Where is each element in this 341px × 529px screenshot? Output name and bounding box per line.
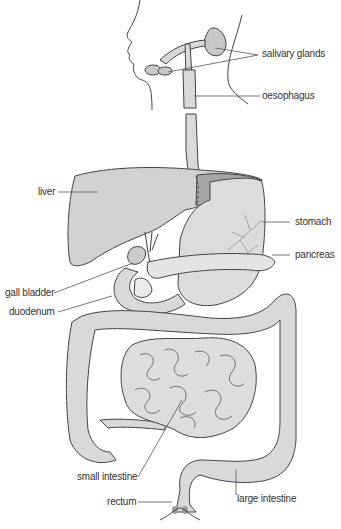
label-large-intestine: large intestine: [237, 493, 296, 504]
label-pancreas: pancreas: [295, 249, 335, 260]
oesophagus-upper: [183, 70, 196, 108]
face-outline: [127, 0, 152, 110]
label-stomach: stomach: [295, 216, 331, 227]
label-small-intestine: small intestine: [77, 471, 137, 482]
label-rectum: rectum: [107, 496, 136, 507]
digestive-system-diagram: salivary glands oesophagus liver stomach…: [0, 0, 341, 529]
label-salivary-glands: salivary glands: [262, 48, 325, 59]
label-gall-bladder: gall bladder: [5, 287, 54, 298]
neck-outline: [228, 15, 248, 104]
label-oesophagus: oesophagus: [262, 90, 315, 101]
label-duodenum: duodenum: [9, 306, 55, 317]
label-liver: liver: [38, 186, 55, 197]
anatomy-illustration: [0, 0, 341, 529]
gall-bladder: [128, 247, 146, 265]
